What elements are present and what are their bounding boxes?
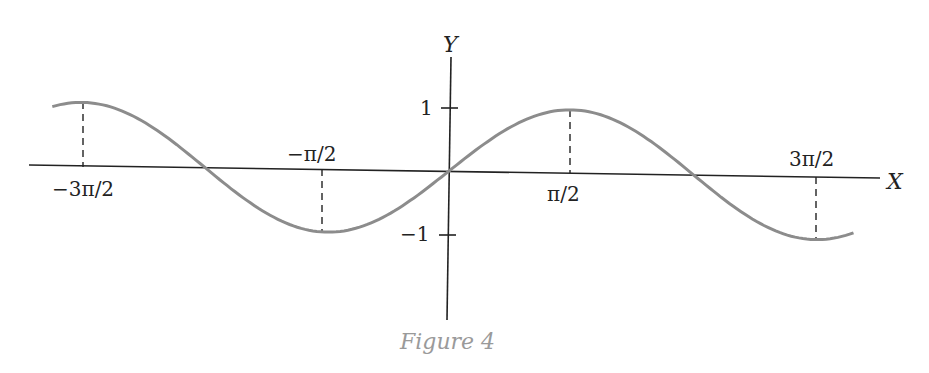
y-tick-label-1: 1 xyxy=(420,96,433,120)
y-axis-label: Y xyxy=(443,32,460,57)
x-tick-label-neg3pi2: −3π/2 xyxy=(52,177,114,201)
x-tick-label-3pi2: 3π/2 xyxy=(789,147,834,171)
y-tick-label-neg1: −1 xyxy=(400,222,429,246)
x-axis-label: X xyxy=(885,169,904,194)
figure-caption: Figure 4 xyxy=(399,329,495,354)
y-axis xyxy=(447,57,451,320)
x-tick-label-pi2: π/2 xyxy=(547,182,580,206)
x-tick-label-negpi2: −π/2 xyxy=(287,142,336,166)
sine-chart: Y X 1 −1 −3π/2 −π/2 π/2 3π/2 Figure 4 xyxy=(0,0,929,373)
